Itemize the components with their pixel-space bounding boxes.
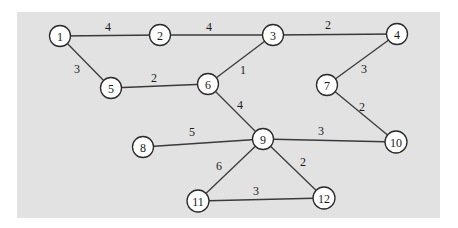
edge-layer [60, 34, 397, 201]
node-7: 7 [317, 75, 338, 96]
node-12: 12 [313, 187, 335, 209]
node-label: 4 [394, 28, 400, 42]
node-layer: 123456789101112 [50, 24, 408, 213]
edge-4-7 [327, 34, 397, 85]
edge-weight-label: 3 [361, 62, 367, 76]
node-10: 10 [385, 131, 407, 153]
edge-weight-label: 2 [151, 71, 157, 85]
edge-weight-label: 1 [240, 63, 246, 77]
node-8: 8 [133, 137, 154, 158]
edge-weight-label: 4 [206, 20, 212, 34]
node-label: 3 [270, 29, 276, 43]
weighted-graph: 44232132453623 123456789101112 [0, 0, 458, 228]
edge-weight-label: 6 [216, 159, 222, 173]
node-1: 1 [50, 26, 71, 47]
edge-weight-label: 5 [189, 125, 195, 139]
edge-weight-label: 3 [253, 184, 259, 198]
node-label: 8 [140, 141, 146, 155]
node-9: 9 [253, 129, 274, 150]
node-4: 4 [387, 24, 408, 45]
edge-8-9 [143, 139, 263, 147]
node-label: 10 [390, 136, 402, 150]
node-label: 6 [205, 78, 211, 92]
node-label: 2 [157, 29, 163, 43]
edge-1-2 [60, 35, 160, 36]
node-label: 1 [57, 30, 63, 44]
edge-9-10 [263, 139, 396, 142]
edge-5-6 [111, 84, 208, 88]
edge-weight-label: 4 [237, 98, 243, 112]
edge-9-12 [263, 139, 324, 198]
edge-6-9 [208, 84, 263, 139]
edge-weight-label: 3 [74, 62, 80, 76]
node-11: 11 [187, 190, 209, 212]
edge-weight-label: 2 [300, 155, 306, 169]
edge-weight-label: 2 [359, 100, 365, 114]
node-5: 5 [101, 78, 122, 99]
node-label: 5 [108, 82, 114, 96]
edge-3-4 [273, 34, 397, 35]
edge-weight-label: 2 [325, 18, 331, 32]
node-label: 9 [260, 133, 266, 147]
node-label: 11 [192, 195, 204, 209]
node-3: 3 [263, 25, 284, 46]
node-label: 12 [318, 192, 330, 206]
node-label: 7 [324, 79, 330, 93]
edge-11-12 [198, 198, 324, 201]
node-2: 2 [150, 25, 171, 46]
node-6: 6 [198, 74, 219, 95]
weight-label-layer: 44232132453623 [74, 18, 367, 198]
edge-weight-label: 4 [105, 20, 111, 34]
edge-weight-label: 3 [318, 124, 324, 138]
